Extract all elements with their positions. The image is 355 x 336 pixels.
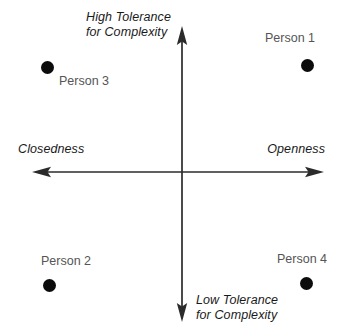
data-point-dot-icon <box>41 61 54 74</box>
data-point-label: Person 1 <box>265 31 315 45</box>
axis-label-left: Closedness <box>18 142 84 157</box>
data-point-dot-icon <box>43 279 56 292</box>
data-point-label: Person 2 <box>41 254 91 268</box>
axis-label-right: Openness <box>239 142 325 157</box>
axis-label-top: High Tolerance for Complexity <box>86 10 171 40</box>
data-point-dot-icon <box>301 59 314 72</box>
quadrant-diagram: High Tolerance for Complexity Low Tolera… <box>0 0 355 336</box>
data-point-dot-icon <box>300 277 313 290</box>
data-point-label: Person 3 <box>59 74 109 88</box>
axis-label-bottom: Low Tolerance for Complexity <box>196 293 278 323</box>
data-point-label: Person 4 <box>277 252 327 266</box>
